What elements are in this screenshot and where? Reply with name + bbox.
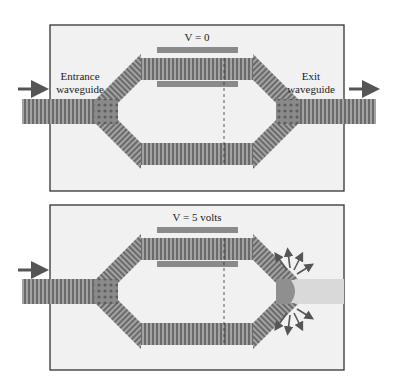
splitter-junction — [94, 99, 118, 124]
mach-zehnder-modulator-diagram: V = 0 Entrance waveguide Exit waveguide — [0, 0, 395, 386]
splitter-junction — [94, 279, 118, 304]
lower-arm — [141, 323, 253, 345]
upper-arm — [141, 238, 253, 260]
entrance-label-line1: Entrance — [60, 70, 99, 82]
top-electrode — [157, 227, 238, 233]
combiner-junction — [276, 99, 300, 124]
bottom-electrode — [157, 81, 238, 87]
entrance-label-line2: waveguide — [56, 83, 104, 95]
panel-voltage-on: V = 5 volts — [18, 205, 344, 370]
entrance-waveguide — [22, 279, 102, 304]
exit-waveguide — [290, 99, 376, 124]
top-electrode — [157, 47, 238, 53]
upper-arm — [141, 58, 253, 80]
exit-label-line1: Exit — [302, 70, 320, 82]
entrance-waveguide — [22, 99, 102, 124]
voltage-label: V = 0 — [185, 31, 210, 43]
bottom-electrode — [157, 261, 238, 267]
exit-label-line2: waveguide — [287, 83, 335, 95]
combiner-junction — [276, 279, 295, 304]
exit-waveguide-dark — [290, 279, 344, 304]
panel-voltage-off: V = 0 Entrance waveguide Exit waveguide — [18, 25, 376, 191]
voltage-label: V = 5 volts — [172, 211, 221, 223]
lower-arm — [141, 143, 253, 165]
